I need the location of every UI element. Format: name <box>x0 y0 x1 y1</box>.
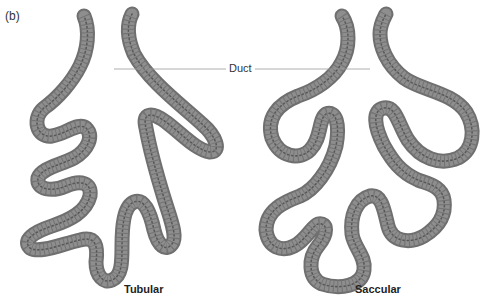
saccular-gland <box>266 14 472 287</box>
tubular-gland <box>27 14 216 281</box>
gland-diagram: (b) Duct Tubular Saccular <box>0 0 484 301</box>
gland-illustration <box>0 0 484 301</box>
caption-tubular: Tubular <box>124 283 164 295</box>
panel-label: (b) <box>5 9 20 23</box>
duct-label: Duct <box>226 62 255 75</box>
caption-saccular: Saccular <box>355 283 401 295</box>
